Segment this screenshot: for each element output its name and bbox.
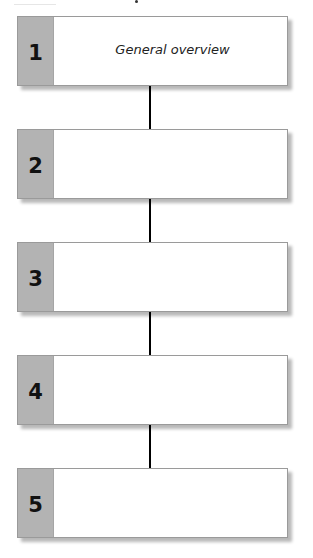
cropped-text-fragment: [135, 0, 138, 3]
faint-line: [14, 4, 56, 5]
step-number: 1: [28, 41, 43, 65]
step-box-3: 3: [17, 242, 288, 312]
step-body: [54, 243, 287, 311]
connector-4-5: [149, 425, 151, 468]
step-number: 4: [28, 380, 43, 404]
connector-3-4: [149, 312, 151, 355]
cropped-header-fragment: [0, 0, 313, 4]
step-number: 5: [28, 493, 43, 517]
step-body: [54, 130, 287, 198]
step-box-5: 5: [17, 468, 288, 538]
step-number-tab: 1: [18, 17, 54, 85]
step-number: 2: [28, 154, 43, 178]
step-number-tab: 5: [18, 469, 54, 537]
step-box-4: 4: [17, 355, 288, 425]
step-number-tab: 3: [18, 243, 54, 311]
step-number-tab: 4: [18, 356, 54, 424]
step-label: General overview: [115, 42, 229, 57]
step-body: General overview: [54, 17, 287, 85]
step-body: [54, 469, 287, 537]
step-number: 3: [28, 267, 43, 291]
step-box-2: 2: [17, 129, 288, 199]
step-box-1: 1 General overview: [17, 16, 288, 86]
step-body: [54, 356, 287, 424]
connector-1-2: [149, 86, 151, 129]
connector-2-3: [149, 199, 151, 242]
step-number-tab: 2: [18, 130, 54, 198]
